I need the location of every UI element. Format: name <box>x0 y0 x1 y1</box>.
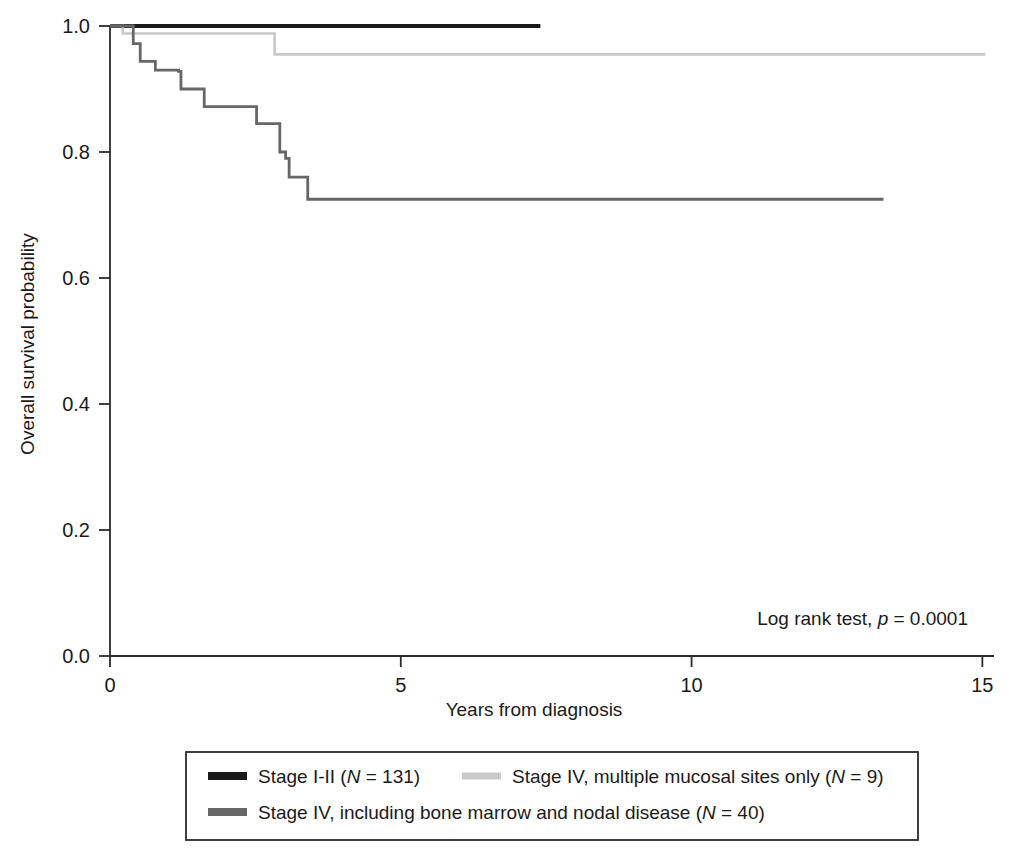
y-tick-label: 0.2 <box>62 519 90 541</box>
y-tick-label: 0.4 <box>62 393 90 415</box>
y-tick-label: 1.0 <box>62 15 90 37</box>
survival-curves <box>110 26 985 199</box>
kaplan-meier-figure: 0.00.20.40.60.81.0 051015 Years from dia… <box>0 0 1033 859</box>
legend-label-stage-iv-mucosal: Stage IV, multiple mucosal sites only (N… <box>512 766 884 787</box>
legend-label-stage-iv-marrow-nodal: Stage IV, including bone marrow and noda… <box>258 802 765 823</box>
legend-item-stage-iv-marrow-nodal[interactable]: Stage IV, including bone marrow and noda… <box>208 802 765 823</box>
survival-curve-series-1 <box>110 26 985 54</box>
x-axis-title: Years from diagnosis <box>446 699 623 720</box>
legend-item-stage-iv-mucosal[interactable]: Stage IV, multiple mucosal sites only (N… <box>462 766 884 787</box>
x-tick-label: 10 <box>680 674 702 696</box>
y-axis: 0.00.20.40.60.81.0 <box>62 15 110 667</box>
y-tick-group: 0.00.20.40.60.81.0 <box>62 15 110 667</box>
x-axis: 051015 <box>104 656 994 696</box>
y-tick-label: 0.8 <box>62 141 90 163</box>
km-survival-chart: 0.00.20.40.60.81.0 051015 Years from dia… <box>0 0 1033 859</box>
y-tick-label: 0.0 <box>62 645 90 667</box>
y-tick-label: 0.6 <box>62 267 90 289</box>
x-tick-group: 051015 <box>104 656 993 696</box>
y-axis-title: Overall survival probability <box>17 233 38 455</box>
legend: Stage I-II (N = 131) Stage IV, multiple … <box>186 752 918 840</box>
x-tick-label: 0 <box>104 674 115 696</box>
x-tick-label: 15 <box>971 674 993 696</box>
legend-item-stage-i-ii[interactable]: Stage I-II (N = 131) <box>208 766 420 787</box>
x-tick-label: 5 <box>395 674 406 696</box>
log-rank-annotation: Log rank test, p = 0.0001 <box>757 608 968 629</box>
survival-curve-series-2 <box>110 26 884 199</box>
legend-label-stage-i-ii: Stage I-II (N = 131) <box>258 766 420 787</box>
